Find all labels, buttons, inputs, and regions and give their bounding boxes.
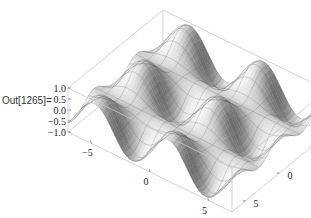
z-tick-label: −0.5 [48, 116, 66, 127]
y-tick-label: 0 [288, 170, 293, 181]
z-tick-label: 0.0 [54, 105, 67, 116]
z-tick-label: 0.5 [54, 94, 67, 105]
surface-mesh [68, 25, 311, 197]
x-tick-label: 5 [202, 205, 207, 216]
x-tick-label: −5 [82, 147, 93, 158]
x-tick-label: 0 [144, 176, 149, 187]
z-tick-label: −1.0 [48, 127, 66, 138]
surface-plot-3d[interactable]: 1.00.50.0−0.5−1.0−505−505 [0, 0, 311, 218]
z-tick-label: 1.0 [54, 83, 67, 94]
y-tick-label: 5 [254, 198, 259, 209]
